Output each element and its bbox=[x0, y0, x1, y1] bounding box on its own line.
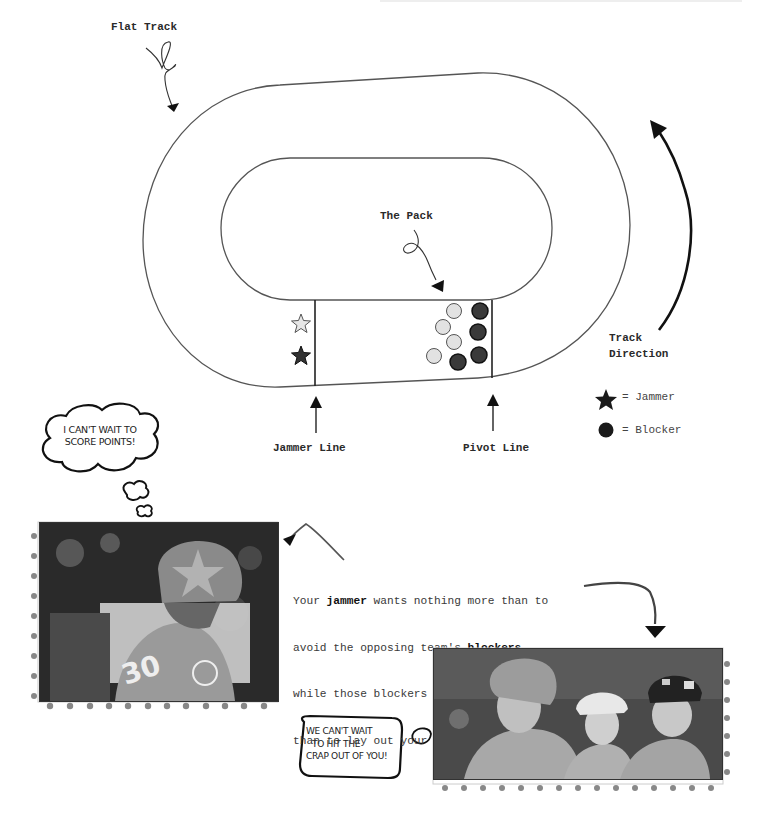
blocker-dark-icon bbox=[470, 324, 486, 340]
blocker-light-icon bbox=[447, 335, 462, 350]
legend-blocker-text: = Blocker bbox=[622, 424, 681, 436]
blockers-photo-illustration bbox=[434, 649, 722, 779]
the-pack-label: The Pack bbox=[380, 210, 433, 222]
blocker-light-icon bbox=[447, 304, 462, 319]
flat-track-arrow-icon bbox=[146, 42, 179, 112]
jammer-photo-frame: 30 bbox=[30, 520, 286, 712]
jammer-line-label: Jammer Line bbox=[273, 442, 346, 454]
pack-blockers bbox=[427, 303, 489, 370]
legend-star-icon bbox=[595, 389, 617, 410]
jammer-star-light-icon bbox=[292, 314, 311, 333]
blocker-dark-icon bbox=[450, 354, 466, 370]
pivot-line-label: Pivot Line bbox=[463, 442, 529, 454]
thought-bubble-text: I CAN'T WAIT TO SCORE POINTS! bbox=[44, 424, 156, 448]
pivot-line-arrow-icon bbox=[487, 394, 499, 431]
caption-jammer-bold: jammer bbox=[327, 595, 367, 607]
blockers-photo-frame bbox=[431, 646, 733, 794]
outer-track-boundary bbox=[143, 73, 630, 387]
arrow-to-jammer-photo-icon bbox=[283, 524, 344, 560]
thought-line-1: I CAN'T WAIT TO bbox=[44, 424, 156, 436]
blocker-light-icon bbox=[436, 320, 451, 335]
thought-line-2: SCORE POINTS! bbox=[44, 436, 156, 448]
caption-text: wants nothing more than to bbox=[367, 595, 548, 607]
track-direction-label: Track Direction bbox=[609, 330, 668, 362]
jammer-line-arrow-icon bbox=[310, 396, 322, 433]
caption-text: Your bbox=[293, 595, 327, 607]
pack-arrow-icon bbox=[404, 230, 444, 292]
jammer-photo-illustration: 30 bbox=[40, 523, 278, 701]
blocker-light-icon bbox=[427, 349, 442, 364]
blockers-photo bbox=[433, 648, 723, 780]
track-direction-line1: Track bbox=[609, 330, 668, 346]
caption-line-1: Your jammer wants nothing more than to bbox=[293, 594, 548, 610]
track-direction-line2: Direction bbox=[609, 346, 668, 362]
legend-circle-icon bbox=[599, 423, 614, 438]
inner-track-boundary bbox=[221, 158, 552, 300]
legend-jammer-text: = Jammer bbox=[622, 391, 675, 403]
track-direction-arrow-icon bbox=[650, 120, 691, 330]
jammer-photo: 30 bbox=[39, 522, 279, 702]
blocker-dark-icon bbox=[472, 303, 488, 319]
flat-track-label: Flat Track bbox=[111, 21, 177, 33]
blocker-dark-icon bbox=[471, 347, 487, 363]
jammer-star-dark-icon bbox=[292, 346, 311, 365]
arrow-to-blockers-photo-icon bbox=[584, 583, 666, 638]
thought-bubble bbox=[43, 404, 158, 531]
